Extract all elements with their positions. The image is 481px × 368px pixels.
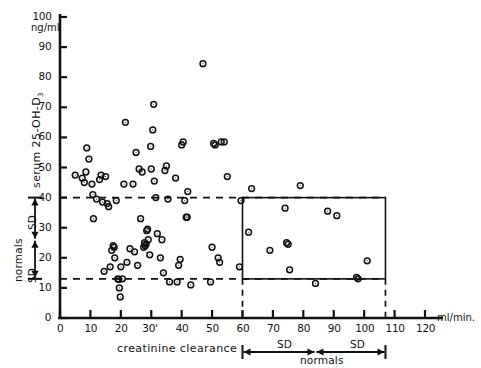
bottom-bracket-sd-left-label: SD — [277, 338, 292, 350]
data-point-center — [184, 200, 185, 201]
data-point — [325, 208, 331, 214]
x-tick-label-40: 40 — [176, 322, 189, 334]
data-point — [94, 196, 100, 202]
data-point-center — [336, 215, 337, 216]
bottom-bracket-normals-label: normals — [300, 354, 344, 366]
data-point-center — [215, 144, 216, 145]
data-point — [118, 264, 124, 270]
data-point-center — [148, 239, 149, 240]
data-point — [150, 127, 156, 133]
data-point-center — [93, 218, 94, 219]
x-tick-label-80: 80 — [297, 322, 310, 334]
data-point-center — [248, 232, 249, 233]
x-axis-unit-label: ml/min. — [437, 312, 475, 323]
data-point-center — [240, 200, 241, 201]
data-point — [91, 216, 97, 222]
data-point — [282, 205, 288, 211]
data-point-center — [134, 251, 135, 252]
data-point — [148, 166, 154, 172]
data-point-center — [150, 146, 151, 147]
y-axis-unit-label: ng/ml — [31, 22, 60, 33]
data-point-center — [151, 168, 152, 169]
data-point-center — [129, 248, 130, 249]
data-point — [221, 139, 227, 145]
y-tick-label-30: 30 — [39, 221, 52, 233]
data-point-center — [137, 265, 138, 266]
data-point-center — [157, 233, 158, 234]
data-point-center — [187, 217, 188, 218]
data-point — [147, 252, 153, 258]
data-point — [124, 259, 130, 265]
data-point-center — [114, 257, 115, 258]
data-point — [89, 181, 95, 187]
data-point-center — [161, 239, 162, 240]
data-point — [116, 285, 122, 291]
data-point-center — [152, 129, 153, 130]
data-point — [161, 270, 167, 276]
data-point — [173, 175, 179, 181]
data-point — [237, 264, 243, 270]
data-point — [185, 189, 191, 195]
data-point-center — [251, 188, 252, 189]
data-point-center — [358, 278, 359, 279]
data-point-center — [120, 296, 121, 297]
data-point-center — [227, 176, 228, 177]
data-point-center — [239, 266, 240, 267]
x-tick-label-10: 10 — [84, 322, 97, 334]
data-point — [84, 145, 90, 151]
data-points-group — [72, 61, 370, 300]
data-point-center — [123, 184, 124, 185]
data-point — [157, 255, 163, 261]
data-point — [176, 262, 182, 268]
data-point-center — [104, 271, 105, 272]
data-point-center — [84, 182, 85, 183]
data-point-center — [85, 171, 86, 172]
normal-range-box — [243, 198, 386, 279]
y-tick-label-20: 20 — [39, 251, 52, 263]
data-point-center — [147, 229, 148, 230]
data-point — [151, 178, 157, 184]
left-bracket-arrow-upper-head-bottom — [31, 232, 38, 239]
bottom-bracket-sd-right-label: SD — [350, 338, 365, 350]
data-point-center — [367, 260, 368, 261]
y-tick-label-100: 100 — [32, 10, 51, 22]
data-point — [200, 61, 206, 67]
data-point-center — [177, 281, 178, 282]
data-point-center — [146, 244, 147, 245]
x-tick-label-30: 30' — [142, 322, 157, 334]
data-point — [159, 237, 165, 243]
data-point — [83, 169, 89, 175]
data-point-center — [119, 287, 120, 288]
y-tick-label-50: 50 — [39, 161, 52, 173]
x-tick-label-70: 70 — [267, 322, 280, 334]
data-point-center — [180, 259, 181, 260]
data-point-center — [91, 184, 92, 185]
data-point-center — [139, 168, 140, 169]
data-point-center — [160, 257, 161, 258]
data-point-center — [117, 278, 118, 279]
data-point — [267, 247, 273, 253]
data-point — [148, 144, 154, 150]
data-point-center — [164, 170, 165, 171]
x-tick-label-20: 20 — [115, 322, 128, 334]
left-bracket-sd-lower-label: SD — [26, 268, 38, 283]
data-point — [287, 267, 293, 273]
data-point-center — [116, 200, 117, 201]
y-tick-label-0: 0 — [45, 311, 51, 323]
data-point-center — [289, 269, 290, 270]
data-point — [188, 282, 194, 288]
data-point-center — [135, 152, 136, 153]
data-point-center — [101, 174, 102, 175]
y-tick-label-60: 60 — [39, 130, 52, 142]
data-point-center — [327, 211, 328, 212]
data-point-center — [126, 262, 127, 263]
x-tick-label-90: 90 — [328, 322, 341, 334]
data-point-center — [224, 141, 225, 142]
data-point-center — [212, 247, 213, 248]
data-point-center — [175, 177, 176, 178]
data-point — [151, 101, 157, 107]
data-point-center — [132, 184, 133, 185]
data-point-center — [190, 284, 191, 285]
left-bracket-arrow-upper-head-top — [31, 199, 38, 206]
data-point-center — [102, 202, 103, 203]
